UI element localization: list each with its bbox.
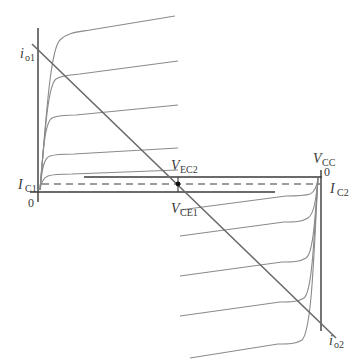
label-origin-left: 0 xyxy=(28,196,34,210)
svg-text:I: I xyxy=(329,181,336,196)
label-vec2: V EC2 xyxy=(171,158,198,175)
right-curve-1 xyxy=(180,178,318,210)
svg-text:o2: o2 xyxy=(334,339,344,350)
svg-text:I: I xyxy=(17,177,24,192)
svg-text:o1: o1 xyxy=(25,52,35,63)
load-line xyxy=(32,44,336,338)
label-ic2: I C2 xyxy=(329,181,349,198)
left-curve-1 xyxy=(40,16,175,190)
complementary-output-stage-load-line-diagram: i o1 I C1 0 V EC2 V CE1 V CC 0 I C2 i o2 xyxy=(0,0,362,363)
svg-text:C2: C2 xyxy=(337,187,349,198)
svg-text:C1: C1 xyxy=(25,183,37,194)
svg-text:i: i xyxy=(20,46,24,61)
left-curve-5 xyxy=(40,170,178,190)
label-io2: i o2 xyxy=(329,333,344,350)
axes xyxy=(30,28,322,331)
label-io1: i o1 xyxy=(20,46,35,63)
label-vce1: V CE1 xyxy=(171,201,198,218)
right-curve-5 xyxy=(190,178,318,358)
svg-text:EC2: EC2 xyxy=(180,164,198,175)
q-point-dot xyxy=(176,182,181,187)
svg-text:i: i xyxy=(329,333,333,348)
right-characteristic-curves xyxy=(180,178,318,358)
label-ic1: I C1 xyxy=(17,177,37,194)
left-characteristic-curves xyxy=(40,16,178,190)
svg-text:CE1: CE1 xyxy=(180,207,198,218)
label-origin-right: 0 xyxy=(324,165,330,179)
right-curve-4 xyxy=(180,178,318,316)
